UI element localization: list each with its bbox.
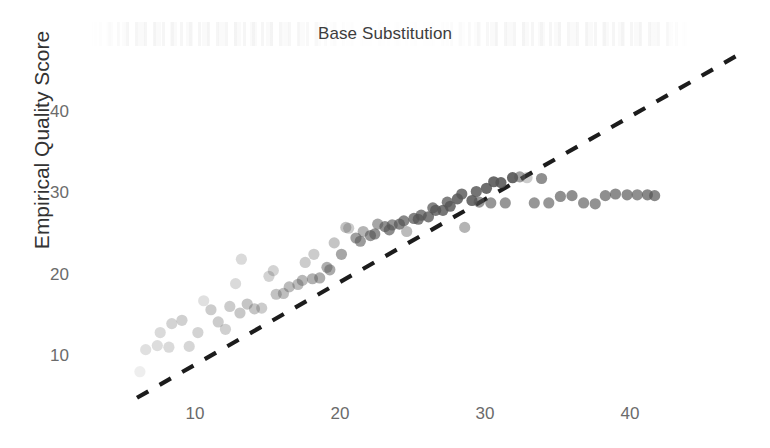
data-point	[329, 237, 340, 248]
y-tick-label: 10	[35, 346, 69, 366]
data-point	[336, 249, 347, 260]
data-point	[184, 341, 195, 352]
data-point	[192, 327, 203, 338]
data-point	[536, 173, 547, 184]
data-point	[166, 318, 177, 329]
plot-canvas	[0, 0, 770, 448]
scatter-plot-figure: Base Substitution Empirical Quality Scor…	[0, 0, 770, 448]
data-point	[474, 197, 485, 208]
data-point	[220, 324, 231, 335]
data-point	[198, 295, 209, 306]
data-point	[268, 265, 279, 276]
x-tick-label: 40	[610, 404, 650, 424]
data-point	[155, 327, 166, 338]
y-tick-label: 20	[35, 265, 69, 285]
data-point	[500, 197, 511, 208]
data-point	[205, 304, 216, 315]
data-point	[224, 301, 235, 312]
identity-line	[137, 56, 736, 397]
data-point	[256, 303, 267, 314]
data-point	[355, 236, 366, 247]
data-point	[230, 278, 241, 289]
data-point	[600, 190, 611, 201]
data-point	[297, 275, 308, 286]
data-point	[152, 340, 163, 351]
data-point	[236, 254, 247, 265]
data-point	[566, 190, 577, 201]
data-point	[632, 189, 643, 200]
data-point	[369, 228, 380, 239]
data-point	[459, 222, 470, 233]
x-tick-label: 30	[465, 404, 505, 424]
data-point	[163, 342, 174, 353]
y-tick-label: 40	[35, 102, 69, 122]
data-point	[471, 186, 482, 197]
data-point	[555, 191, 566, 202]
data-point	[649, 190, 660, 201]
data-point	[495, 177, 506, 188]
data-point	[590, 198, 601, 209]
data-point	[521, 172, 532, 183]
data-point	[343, 223, 354, 234]
y-tick-label: 30	[35, 183, 69, 203]
data-point	[176, 315, 187, 326]
data-point	[578, 197, 589, 208]
data-point	[622, 189, 633, 200]
data-point	[324, 264, 335, 275]
data-point	[543, 197, 554, 208]
data-point	[485, 197, 496, 208]
data-point	[529, 197, 540, 208]
data-point	[234, 307, 245, 318]
x-tick-label: 20	[320, 404, 360, 424]
data-point	[398, 215, 409, 226]
data-point	[456, 188, 467, 199]
data-point	[401, 226, 412, 237]
data-point	[314, 272, 325, 283]
x-tick-label: 10	[175, 404, 215, 424]
data-point	[134, 366, 145, 377]
data-point	[140, 344, 151, 355]
data-point	[300, 257, 311, 268]
data-point	[308, 249, 319, 260]
data-point	[610, 188, 621, 199]
identity-reference-line	[137, 56, 736, 397]
data-points-group	[134, 171, 660, 377]
